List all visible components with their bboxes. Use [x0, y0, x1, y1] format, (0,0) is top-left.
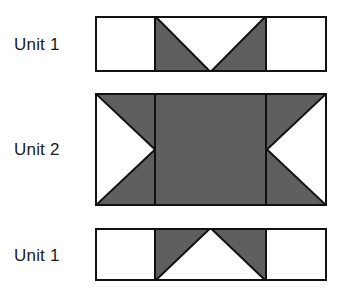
unit-label-bottom: Unit 1: [14, 247, 90, 264]
unit-row-top: Unit 1: [0, 16, 349, 72]
unit-figure-bottom: [95, 228, 327, 281]
quilt-unit-diagram: Unit 1 Unit 2: [0, 0, 349, 295]
unit-top-svg: [95, 16, 327, 72]
unit-row-bottom: Unit 1: [0, 228, 349, 281]
unit-figure-middle: [95, 93, 327, 206]
unit-bottom-left-square: [95, 228, 155, 281]
unit-label-top: Unit 1: [14, 36, 90, 53]
unit-top-right-square: [266, 16, 327, 72]
unit-middle-svg: [95, 93, 327, 206]
unit-bottom-svg: [95, 228, 327, 281]
unit-figure-top: [95, 16, 327, 72]
unit-top-left-square: [95, 16, 155, 72]
unit-label-middle: Unit 2: [14, 141, 90, 158]
unit-bottom-right-square: [266, 228, 327, 281]
unit-row-middle: Unit 2: [0, 93, 349, 206]
